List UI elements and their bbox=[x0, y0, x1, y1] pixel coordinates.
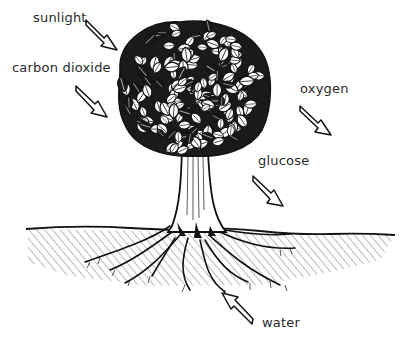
glucose-arrow-icon bbox=[253, 176, 283, 206]
label-sunlight: sunlight bbox=[33, 11, 87, 24]
trunk bbox=[168, 150, 226, 238]
label-oxygen: oxygen bbox=[300, 82, 349, 95]
sunlight-arrow-icon bbox=[86, 20, 117, 50]
label-carbon-dioxide: carbon dioxide bbox=[12, 61, 111, 74]
label-water: water bbox=[262, 316, 300, 329]
carbon-dioxide-arrow-icon bbox=[76, 86, 107, 117]
tree-illustration bbox=[0, 0, 401, 341]
label-glucose: glucose bbox=[258, 154, 309, 167]
oxygen-arrow-icon bbox=[300, 106, 331, 135]
photosynthesis-diagram: sunlight carbon dioxide oxygen glucose w… bbox=[0, 0, 401, 341]
water-arrow-icon bbox=[222, 293, 253, 324]
